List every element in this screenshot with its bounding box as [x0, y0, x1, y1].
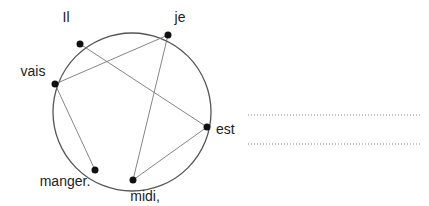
node-manger — [92, 167, 99, 174]
label-est: est — [216, 121, 235, 137]
label-vais: vais — [21, 63, 46, 79]
connection-vais-manger — [55, 84, 95, 170]
label-manger: manger. — [40, 173, 91, 189]
circle-outline — [53, 33, 211, 191]
connection-je-vais — [55, 35, 168, 84]
connections — [55, 35, 207, 180]
node-est — [204, 124, 211, 131]
label-midi: midi, — [130, 188, 160, 204]
node-vais — [52, 81, 59, 88]
word-circle-diagram: Iljevaisestmidi,manger. — [0, 0, 429, 206]
node-il — [77, 41, 84, 48]
label-je: je — [174, 9, 186, 25]
node-midi — [130, 177, 137, 184]
label-il: Il — [63, 9, 70, 25]
node-je — [165, 32, 172, 39]
